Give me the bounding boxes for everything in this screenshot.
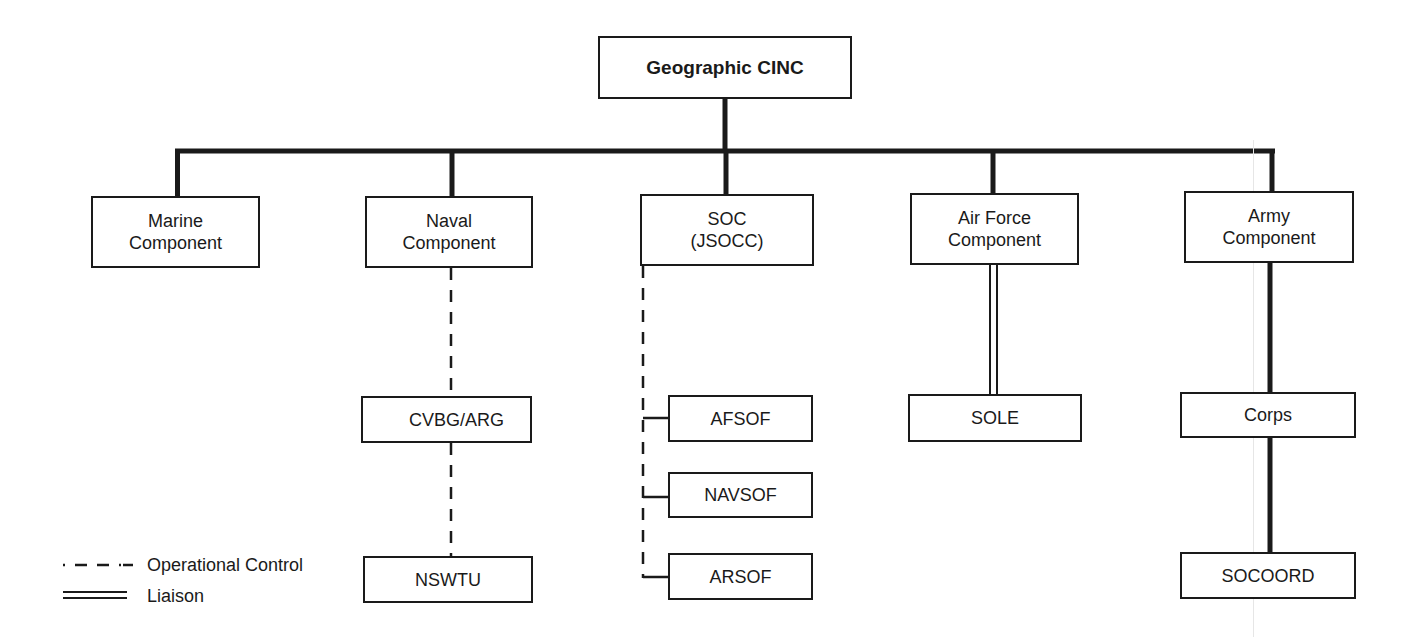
node-afsof: AFSOF [668,395,813,442]
node-label: Air Force Component [948,207,1041,251]
node-arsof: ARSOF [668,553,813,600]
node-cvbg-arg: CVBG/ARG [361,396,532,443]
node-label: SOCOORD [1221,565,1314,587]
liaison-lines [990,265,997,395]
node-army-component: Army Component [1184,191,1354,263]
node-label: Naval Component [402,210,495,254]
node-label: CVBG/ARG [409,409,504,431]
node-label: NAVSOF [704,484,777,506]
node-nswtu: NSWTU [363,556,533,603]
node-label: Army Component [1222,205,1315,249]
node-label: ARSOF [709,566,771,588]
node-socoord: SOCOORD [1180,552,1356,599]
node-air-force-component: Air Force Component [910,193,1079,265]
node-geographic-cinc: Geographic CINC [598,36,852,99]
legend-glyphs [63,565,139,598]
node-label: AFSOF [710,408,770,430]
node-naval-component: Naval Component [365,196,533,268]
node-label: Geographic CINC [646,57,803,79]
node-label: Corps [1244,404,1292,426]
node-label: SOC (JSOCC) [691,208,764,252]
legend-liaison-label: Liaison [147,586,204,606]
node-soc-jsocc: SOC (JSOCC) [640,194,814,266]
legend-operational-control-label: Operational Control [147,555,303,575]
node-label: NSWTU [415,569,481,591]
node-corps: Corps [1180,392,1356,438]
org-chart: Geographic CINC Marine Component Naval C… [0,0,1423,637]
node-marine-component: Marine Component [91,196,260,268]
node-sole: SOLE [908,394,1082,442]
node-label: Marine Component [129,210,222,254]
node-navsof: NAVSOF [668,472,813,518]
node-label: SOLE [971,407,1019,429]
